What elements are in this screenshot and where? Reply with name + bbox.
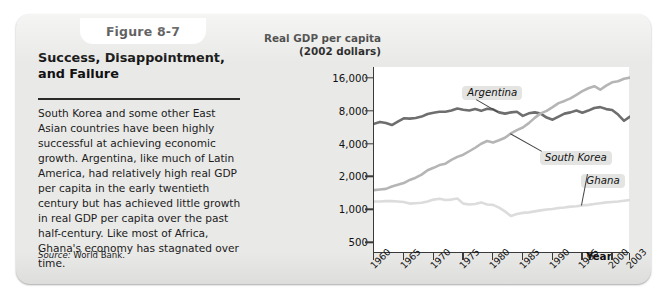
- y-axis-tick-label: 4,000: [290, 138, 368, 149]
- y-axis-tick-mark: [365, 110, 373, 111]
- y-axis-title: Real GDP per capita (2002 dollars): [256, 32, 381, 58]
- y-axis-tick-label: 16,000: [290, 72, 368, 83]
- caption-panel: Figure 8-7 Success, Disappointment, and …: [26, 18, 251, 280]
- y-axis-tick-label: 8,000: [290, 105, 368, 116]
- y-axis-tick-mark: [365, 176, 373, 177]
- y-axis-tick-label: 2,000: [290, 171, 368, 182]
- x-axis-tick-label: 1960: [368, 246, 393, 271]
- title-divider: [38, 98, 240, 100]
- series-label-ghana: Ghana: [581, 174, 624, 188]
- y-axis-tick-mark: [365, 242, 373, 243]
- source-note: Source: World Bank.: [38, 250, 246, 260]
- y-axis-tick-mark: [365, 143, 373, 144]
- series-line-ghana: [374, 198, 630, 216]
- figure-number-tab: Figure 8-7: [80, 18, 206, 44]
- source-label: Source:: [38, 250, 71, 260]
- series-line-argentina: [374, 107, 630, 125]
- source-value: World Bank.: [73, 250, 125, 260]
- y-axis-tick-mark: [365, 209, 373, 210]
- figure-title: Success, Disappointment, and Failure: [38, 50, 243, 83]
- series-label-argentina: Argentina: [462, 86, 522, 100]
- y-axis-tick-mark: [365, 77, 373, 78]
- chart-region: Real GDP per capita (2002 dollars) Year …: [256, 18, 651, 280]
- figure-number-label: Figure 8-7: [106, 24, 180, 39]
- figure-card: Figure 8-7 Success, Disappointment, and …: [16, 14, 651, 284]
- series-label-south-korea: South Korea: [540, 151, 612, 165]
- figure-caption-text: South Korea and some other East Asian co…: [38, 106, 246, 271]
- y-axis-tick-label: 1,000: [290, 204, 368, 215]
- y-axis-tick-label: 500: [290, 237, 368, 248]
